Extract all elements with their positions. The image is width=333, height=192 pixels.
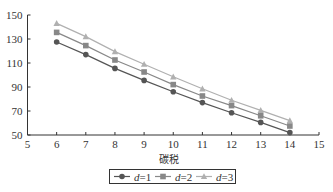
y-tick-label: 130 xyxy=(6,33,23,45)
legend-label: d=2 xyxy=(175,171,192,183)
circle-marker-icon xyxy=(258,120,264,126)
triangle-marker-icon xyxy=(53,20,59,26)
circle-marker-icon xyxy=(54,39,60,45)
circle-marker-icon xyxy=(119,174,125,180)
series-triangle xyxy=(53,20,293,123)
square-marker-icon xyxy=(200,93,206,99)
circle-marker-icon xyxy=(141,78,147,84)
legend-label: d=3 xyxy=(216,171,234,183)
square-marker-icon xyxy=(83,43,89,49)
y-tick-label: 150 xyxy=(6,9,23,21)
square-marker-icon xyxy=(258,113,264,119)
x-tick-label: 15 xyxy=(314,138,326,150)
y-tick-label: 50 xyxy=(12,129,24,141)
x-tick-label: 6 xyxy=(54,138,60,150)
x-tick-label: 10 xyxy=(168,138,180,150)
x-tick-label: 11 xyxy=(197,138,208,150)
square-marker-icon xyxy=(160,174,166,180)
square-marker-icon xyxy=(229,103,235,109)
circle-marker-icon xyxy=(200,100,206,106)
legend: d=1d=2d=3 xyxy=(110,170,236,184)
square-marker-icon xyxy=(112,57,118,63)
x-axis-title: 碳税 xyxy=(159,153,179,165)
y-tick-label: 110 xyxy=(6,57,23,69)
line-chart: 56789101112131415507090110130150 碳税 d=1d… xyxy=(0,0,333,192)
legend-label: d=1 xyxy=(134,171,151,183)
square-marker-icon xyxy=(54,30,60,36)
x-tick-label: 5 xyxy=(25,138,31,150)
circle-marker-icon xyxy=(287,130,293,136)
square-marker-icon xyxy=(170,82,176,88)
series-line xyxy=(57,23,290,120)
y-tick-label: 70 xyxy=(12,105,24,117)
circle-marker-icon xyxy=(229,110,235,116)
circle-marker-icon xyxy=(112,66,118,72)
x-tick-label: 9 xyxy=(141,138,147,150)
square-marker-icon xyxy=(287,123,293,129)
square-marker-icon xyxy=(141,69,147,75)
x-tick-label: 12 xyxy=(226,138,237,150)
x-tick-label: 14 xyxy=(284,138,296,150)
x-tick-label: 8 xyxy=(112,138,118,150)
triangle-marker-icon xyxy=(83,33,89,39)
y-tick-label: 90 xyxy=(12,81,24,93)
circle-marker-icon xyxy=(170,89,176,95)
x-tick-label: 13 xyxy=(255,138,267,150)
series-group xyxy=(53,20,293,135)
triangle-marker-icon xyxy=(112,48,118,54)
x-tick-label: 7 xyxy=(83,138,89,150)
circle-marker-icon xyxy=(83,52,89,58)
